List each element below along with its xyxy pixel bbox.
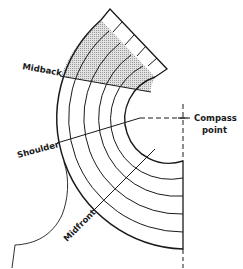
label-compass-point: point bbox=[202, 125, 227, 135]
midfront-line bbox=[93, 149, 155, 211]
label-midback: Midback bbox=[22, 61, 63, 78]
neckline-curve bbox=[12, 162, 68, 268]
label-midfront: Midfront bbox=[61, 207, 97, 243]
pattern-diagram: Midback Shoulder Midfront Compass point bbox=[0, 0, 243, 269]
label-compass: Compass bbox=[194, 113, 237, 123]
label-shoulder: Shoulder bbox=[16, 139, 61, 160]
